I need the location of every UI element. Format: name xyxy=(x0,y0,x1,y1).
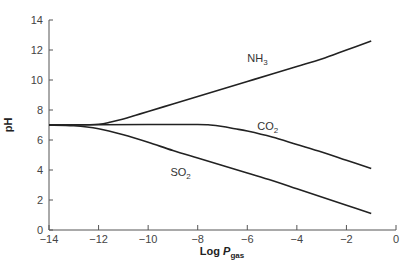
series-lines xyxy=(49,41,371,214)
x-tick-label: −2 xyxy=(340,233,353,245)
series-label-nh3: NH3 xyxy=(247,52,268,67)
x-tick-label: −6 xyxy=(241,233,254,245)
x-axis-title: Log Pgas xyxy=(200,245,245,260)
axes: 02468101214−14−12−10−8−6−4−20 xyxy=(31,14,399,245)
x-tick-label: 0 xyxy=(393,233,399,245)
y-tick-label: 14 xyxy=(31,14,43,26)
x-tick-label: −12 xyxy=(89,233,108,245)
x-tick-label: −8 xyxy=(191,233,204,245)
y-tick-label: 8 xyxy=(37,104,43,116)
x-tick-label: −10 xyxy=(139,233,158,245)
y-tick-label: 2 xyxy=(37,194,43,206)
y-tick-label: 10 xyxy=(31,74,43,86)
series-label-so2: SO2 xyxy=(170,166,191,181)
y-axis-title: pH xyxy=(2,118,14,133)
x-tick-label: −4 xyxy=(291,233,304,245)
series-line-so2 xyxy=(49,125,371,214)
y-tick-label: 4 xyxy=(37,164,43,176)
x-axis-title-main: Log xyxy=(200,245,223,257)
series-label-co2: CO2 xyxy=(257,120,279,135)
series-line-nh3 xyxy=(49,41,371,125)
chart: 02468101214−14−12−10−8−6−4−20 NH3CO2SO2 … xyxy=(0,0,412,273)
y-tick-label: 12 xyxy=(31,44,43,56)
y-tick-label: 6 xyxy=(37,134,43,146)
x-tick-label: −14 xyxy=(40,233,59,245)
x-axis-title-sub: gas xyxy=(230,251,244,260)
series-labels: NH3CO2SO2 xyxy=(170,52,278,181)
